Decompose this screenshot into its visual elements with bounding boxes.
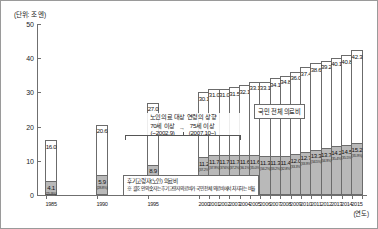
chart-figure: (단위: 조 엔) 01020304050 16.04.1(25.9%)20.6… — [0, 0, 378, 229]
annotation-age-title: 노인의료 대상 연령의 상향 — [119, 113, 247, 121]
annotation-arrow-icon: → — [179, 122, 185, 132]
y-axis-tick-mark — [37, 161, 41, 162]
bar-total-value-label: 16.0 — [46, 143, 57, 150]
x-axis-tick-mark — [46, 195, 47, 199]
x-axis-tick-mark — [352, 195, 353, 199]
bar-group: 42.315.2(35.9%) — [351, 50, 362, 195]
bar-total-value-label: 20.6 — [97, 127, 108, 134]
x-axis-unit-label: (연도) — [354, 209, 369, 218]
annotation-age-right-label: 75세 이상 — [189, 122, 216, 129]
y-axis-tick-mark — [37, 24, 41, 25]
y-axis-tick-mark — [37, 92, 41, 93]
x-axis-tick-mark — [97, 195, 98, 199]
legend-elderly-label: 후기고령자(노인) 의료비 — [127, 178, 255, 186]
bar-elderly-value-label: 4.1 — [47, 185, 55, 191]
bar-elderly-value-label: 8.9 — [149, 168, 157, 174]
x-axis-tick-label: 2015 — [351, 201, 362, 207]
bar-total-value-label: 27.0 — [148, 105, 159, 112]
plot-area: 01020304050 16.04.1(25.9%)20.65.9(28.8%)… — [37, 24, 367, 196]
y-axis-tick-mark — [37, 127, 41, 128]
bar-elderly-value-label: 5.9 — [98, 179, 106, 185]
legend-total-medical: 국민 전체 의료비 — [254, 104, 305, 119]
x-axis-tick-label: 1995 — [147, 201, 158, 207]
y-axis-tick-label: 20 — [26, 123, 34, 130]
x-axis-tick-mark — [321, 195, 322, 199]
bar-elderly-share-label: (25.9%) — [46, 193, 57, 197]
x-axis-tick-mark — [362, 195, 363, 199]
x-axis-tick-mark — [270, 195, 271, 199]
annotation-age-left-label: 70세 이상 — [150, 122, 175, 129]
x-axis-tick-mark — [260, 195, 261, 199]
x-axis-tick-label: 1990 — [96, 201, 107, 207]
annotation-age-right: 75세 이상 (2007.10~) — [189, 122, 216, 137]
bar-group: 20.65.9(28.8%) — [96, 125, 107, 195]
annotation-age-left: 70세 이상 (~2002.9) — [150, 122, 175, 137]
y-axis-tick-mark — [37, 58, 41, 59]
x-axis-tick-mark — [342, 195, 343, 199]
y-axis-tick-label: 10 — [26, 157, 34, 164]
y-axis-tick-label: 30 — [26, 89, 34, 96]
bar-group: 16.04.1(25.9%) — [45, 140, 56, 195]
bar-elderly-share-label: (28.8%) — [97, 187, 108, 191]
y-axis-tick-label: 50 — [26, 21, 34, 28]
annotation-bracket — [125, 135, 241, 140]
x-axis-tick-label: 1985 — [45, 201, 56, 207]
legend-footnote: ※ 괄호 안의 숫자는 후기고령자 의료비가 국민 전체 의료비에서 차지하는 … — [127, 186, 255, 193]
bar-total-value-label: 42.3 — [352, 53, 363, 60]
y-axis-line — [37, 24, 38, 196]
y-axis-unit-caption: (단위: 조 엔) — [14, 9, 46, 19]
legend-note-box: 후기고령자(노인) 의료비 ※ 괄호 안의 숫자는 후기고령자 의료비가 국민 … — [123, 175, 259, 196]
y-axis-tick-label: 0 — [30, 192, 34, 199]
y-axis-tick-label: 40 — [26, 55, 34, 62]
y-axis-tick-mark — [37, 195, 41, 196]
x-axis-tick-mark — [280, 195, 281, 199]
x-axis-tick-mark — [291, 195, 292, 199]
bar-elderly-value-label: 15.2 — [352, 147, 363, 153]
x-axis-tick-mark — [311, 195, 312, 199]
bar-elderly-share-label: (35.9%) — [351, 155, 362, 159]
x-axis-tick-mark — [301, 195, 302, 199]
x-axis-tick-mark — [331, 195, 332, 199]
